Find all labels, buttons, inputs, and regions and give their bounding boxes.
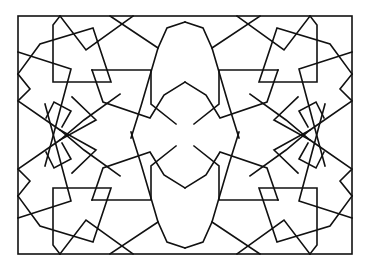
pattern-stroke <box>237 220 310 254</box>
pattern-stroke <box>18 52 71 166</box>
pattern-stroke <box>185 70 278 118</box>
pattern-stroke <box>237 16 310 50</box>
pattern-stroke <box>92 70 185 118</box>
pattern-lines <box>18 16 352 254</box>
pattern-stroke <box>110 16 185 48</box>
pattern-stroke <box>92 152 185 200</box>
pattern-stroke <box>131 132 158 222</box>
pattern-stroke <box>60 220 133 254</box>
pattern-stroke <box>18 188 111 254</box>
pattern-canvas <box>0 0 366 273</box>
pattern-stroke <box>18 16 111 82</box>
pattern-stroke <box>60 16 133 50</box>
pattern-stroke <box>259 16 352 82</box>
pattern-stroke <box>185 152 278 200</box>
pattern-stroke <box>185 16 260 48</box>
pattern-stroke <box>212 132 239 222</box>
pattern-stroke <box>299 104 352 218</box>
pattern-stroke <box>131 48 158 138</box>
pattern-stroke <box>259 188 352 254</box>
pattern-stroke <box>110 222 185 254</box>
pattern-stroke <box>212 48 239 138</box>
pattern-stroke <box>18 104 71 218</box>
geometric-star-pattern <box>0 0 366 273</box>
pattern-stroke <box>185 222 260 254</box>
pattern-stroke <box>299 52 352 166</box>
